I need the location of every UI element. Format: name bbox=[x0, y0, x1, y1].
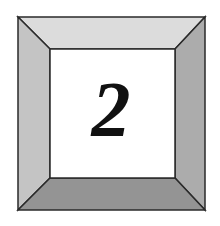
bottom-bevel bbox=[18, 178, 205, 210]
tile-number: 2 bbox=[91, 65, 131, 152]
right-bevel bbox=[175, 17, 205, 210]
beveled-number-tile: 2 bbox=[0, 0, 220, 226]
left-bevel bbox=[18, 17, 50, 210]
